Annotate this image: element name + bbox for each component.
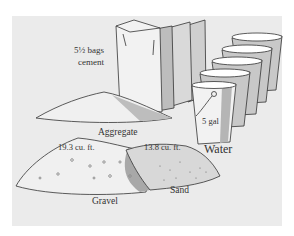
sand-label: Sand: [170, 186, 189, 196]
cement-bags-icon: [116, 20, 206, 112]
front-bucket: [192, 82, 236, 145]
gravel-label: Gravel: [92, 197, 118, 207]
cement-quantity: 5½ bags: [74, 44, 104, 56]
water-volume-label: 5 gal: [202, 117, 219, 126]
cement-label: 5½ bags cement: [74, 44, 104, 68]
sand-volume-label: 13.8 cu. ft.: [144, 143, 181, 152]
aggregate-label: Aggregate: [98, 128, 138, 138]
concrete-ingredients-illustration: [0, 0, 294, 236]
cement-name: cement: [74, 56, 104, 68]
water-label: Water: [204, 143, 232, 155]
gravel-volume-label: 19.3 cu. ft.: [58, 143, 95, 152]
